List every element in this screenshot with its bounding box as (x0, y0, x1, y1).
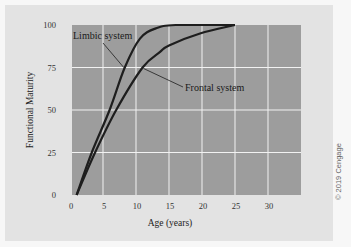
y-tick-labels: 0255075100 (43, 20, 56, 200)
y-tick-label: 50 (48, 105, 57, 115)
y-tick-label: 75 (48, 63, 57, 73)
y-tick-label: 100 (43, 20, 56, 30)
y-axis-label: Functional Maturity (25, 72, 35, 149)
x-tick-label: 20 (199, 201, 208, 211)
annotation-limbic-system: Limbic system (73, 30, 132, 41)
chart: 051015202530 0255075100 Limbic systemFro… (0, 0, 351, 247)
x-tick-label: 5 (102, 201, 106, 211)
annotation-frontal-system: Frontal system (185, 82, 244, 93)
x-tick-label: 25 (232, 201, 241, 211)
x-tick-label: 0 (69, 201, 73, 211)
x-tick-labels: 051015202530 (69, 201, 273, 211)
x-axis-label: Age (years) (148, 218, 193, 229)
x-tick-label: 30 (265, 201, 274, 211)
x-tick-label: 10 (133, 201, 142, 211)
y-tick-label: 0 (52, 190, 56, 200)
x-tick-label: 15 (166, 201, 175, 211)
copyright-credit: © 2019 Cengage (334, 130, 346, 200)
y-tick-label: 25 (48, 148, 57, 158)
